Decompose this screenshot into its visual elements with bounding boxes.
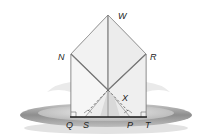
napkin-diagram: W N R X Q S P T xyxy=(0,0,202,139)
napkin-wing-right xyxy=(146,82,170,92)
label-r: R xyxy=(150,52,157,62)
label-w: W xyxy=(118,11,128,21)
label-s: S xyxy=(83,120,89,130)
napkin-wing-left xyxy=(47,82,71,92)
label-p: P xyxy=(127,120,133,130)
label-x: X xyxy=(121,93,129,103)
label-n: N xyxy=(58,52,65,62)
label-q: Q xyxy=(66,120,73,130)
